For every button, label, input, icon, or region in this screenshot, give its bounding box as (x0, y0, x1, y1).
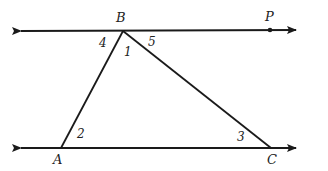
segment-AB (61, 31, 123, 148)
segment-BC (123, 31, 271, 148)
top-line-BP (21, 30, 296, 31)
geometry-diagram: B P A C 4 1 5 2 3 (0, 0, 328, 171)
angle-label-5: 5 (148, 35, 156, 49)
label-B: B (115, 10, 126, 25)
label-P: P (264, 9, 274, 24)
label-C: C (267, 152, 277, 167)
angle-label-2: 2 (76, 127, 85, 141)
angle-label-4: 4 (98, 36, 107, 50)
angle-label-1: 1 (124, 45, 132, 59)
angle-label-3: 3 (237, 130, 245, 144)
point-P-dot (268, 28, 273, 33)
label-A: A (52, 152, 62, 167)
